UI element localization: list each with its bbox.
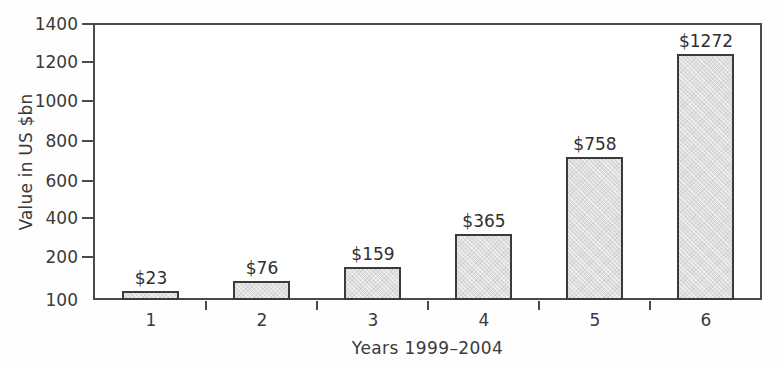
x-tick-mark-5	[649, 301, 651, 310]
bar-2-value-label: $76	[221, 258, 303, 278]
y-tick-label-600: 600	[4, 171, 78, 191]
bar-4-shape[interactable]	[455, 234, 512, 300]
bar-3-value-label: $159	[332, 244, 414, 264]
bar-chart-figure: Value in US $bn 1400 1200 1000 800 600 4…	[0, 0, 778, 365]
bar-6-value-label: $1272	[665, 31, 747, 51]
y-tick-label-800: 800	[4, 131, 78, 151]
x-tick-mark-3	[427, 301, 429, 310]
plot-area	[93, 23, 762, 300]
x-tick-label-4: 4	[443, 310, 525, 330]
y-tick-label-1400: 1400	[4, 14, 78, 34]
y-tick-label-1200: 1200	[4, 52, 78, 72]
x-tick-label-1: 1	[110, 310, 192, 330]
bar-5-value-label: $758	[554, 134, 636, 154]
x-tick-mark-2	[316, 301, 318, 310]
bar-1-shape[interactable]	[122, 291, 179, 300]
y-tick-label-200: 200	[4, 247, 78, 267]
bar-2-shape[interactable]	[233, 281, 290, 300]
x-tick-label-2: 2	[221, 310, 303, 330]
bar-1-value-label: $23	[110, 268, 192, 288]
x-tick-label-6: 6	[665, 310, 747, 330]
y-tick-label-400: 400	[4, 208, 78, 228]
bar-4-value-label: $365	[443, 211, 525, 231]
y-tick-label-100: 100	[4, 290, 78, 310]
x-tick-mark-4	[538, 301, 540, 310]
bar-3-shape[interactable]	[344, 267, 401, 300]
y-tick-label-1000: 1000	[4, 91, 78, 111]
x-tick-label-3: 3	[332, 310, 414, 330]
x-tick-mark-1	[205, 301, 207, 310]
bar-6-shape[interactable]	[677, 54, 734, 300]
y-axis-tick-labels: 1400 1200 1000 800 600 400 200 100	[0, 0, 78, 365]
bar-5-shape[interactable]	[566, 157, 623, 300]
x-axis-title: Years 1999–2004	[93, 338, 762, 358]
x-tick-label-5: 5	[554, 310, 636, 330]
